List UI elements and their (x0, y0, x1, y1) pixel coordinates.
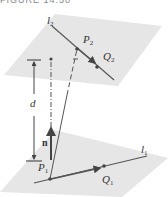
point-q1 (102, 164, 106, 168)
label-p1: P1 (38, 162, 48, 175)
label-q2: Q2 (103, 51, 114, 64)
label-q1: Q1 (102, 174, 113, 187)
label-l2: l2 (47, 15, 54, 28)
point-q2 (95, 65, 99, 69)
skew-lines-distance-diagram (0, 0, 168, 197)
label-d: d (30, 98, 36, 109)
label-l1: l1 (141, 144, 148, 157)
upper-plane (4, 14, 162, 86)
upper-projection-point (49, 57, 52, 60)
label-p2: P2 (83, 34, 93, 47)
lower-plane (0, 130, 168, 197)
label-n: n (42, 138, 48, 148)
